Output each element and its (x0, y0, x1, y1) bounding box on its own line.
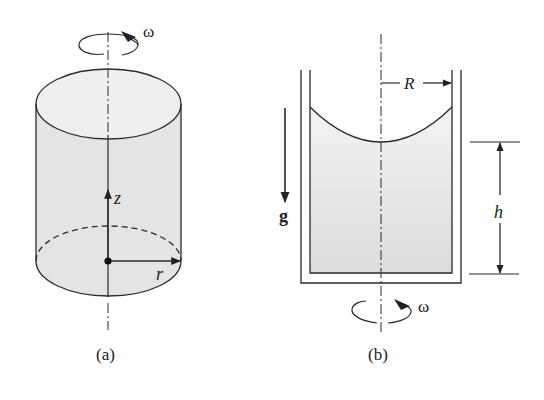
omega-label-a: ω (143, 22, 154, 41)
panel-b-container: R h g ω (b) (279, 34, 520, 364)
rotation-arrow-a-tail (128, 38, 138, 45)
caption-a: (a) (96, 345, 115, 364)
panel-a-cylinder: z r ω (a) (36, 22, 181, 364)
rotation-arrow-b-head-icon (394, 299, 410, 310)
caption-b: (b) (368, 345, 388, 364)
R-label: R (403, 74, 415, 93)
omega-label-b: ω (418, 297, 429, 316)
figure-canvas: z r ω (a) R h g ω ( (0, 0, 544, 400)
r-label: r (156, 264, 164, 284)
g-label: g (279, 206, 288, 226)
z-label: z (113, 188, 121, 208)
h-label: h (494, 202, 503, 222)
origin-dot (104, 257, 111, 264)
